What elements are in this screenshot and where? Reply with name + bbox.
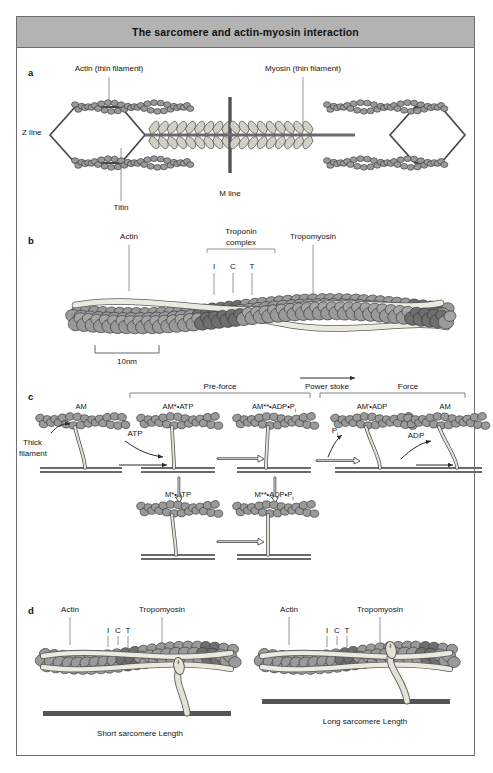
figure-container: The sarcomere and actin-myosin interacti…	[16, 16, 475, 756]
panel-d-graphic	[17, 577, 473, 755]
panel-c-graphic	[17, 369, 473, 577]
figure-title: The sarcomere and actin-myosin interacti…	[132, 26, 359, 38]
panel-a-graphic	[17, 55, 473, 215]
panel-c: c Pre-force Power stoke Force AM AM*•ATP…	[17, 369, 473, 577]
panel-b-graphic	[17, 215, 473, 377]
figure-header: The sarcomere and actin-myosin interacti…	[17, 17, 474, 48]
panel-b: b Actin Troponin complex Tropomyosin I C…	[17, 215, 473, 377]
panel-a: a Actin (thin filament) Myosin (thin fil…	[17, 55, 473, 215]
panel-d: d Actin Tropomyosin I C T Short sarcomer…	[17, 577, 473, 755]
